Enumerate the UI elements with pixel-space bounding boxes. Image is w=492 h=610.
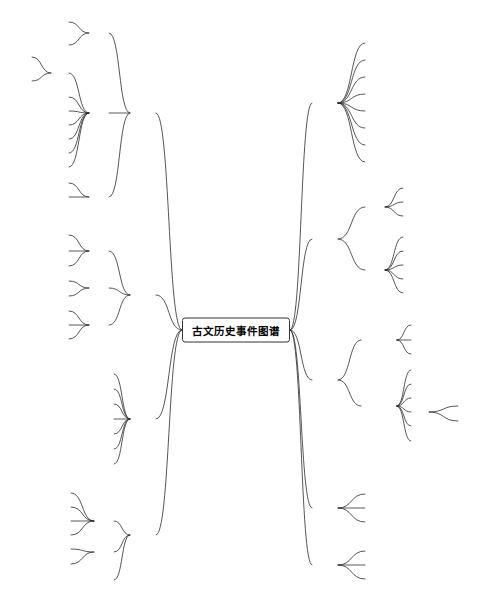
connector-lines: [0, 0, 492, 610]
root-node[interactable]: 古文历史事件图谱: [182, 318, 290, 343]
mind-map-canvas: 古文历史事件图谱: [0, 0, 492, 610]
